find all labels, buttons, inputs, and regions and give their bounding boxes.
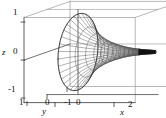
x-tick-label-0: 0 [76,97,81,107]
z-tick-label-0: 0 [13,46,18,56]
y-axis-label: y [42,106,46,116]
z-zero-left-line [24,44,70,60]
z-tick-label-neg1: -1 [8,84,16,94]
z-tick-label-1: 1 [13,7,18,17]
mesh-longitudinal-line [86,14,156,50]
x-tick-label-2: 2 [128,99,133,109]
plot-canvas [0,0,166,118]
surface-plot-figure: 1 0 -1 z 1 0 -1 y 0 2 x [0,0,166,118]
y-tick-label-neg1: -1 [64,97,72,107]
x-axis-label: x [120,107,124,117]
mesh-longitudinal-line [64,30,155,51]
surface-tip [138,49,155,55]
mesh-longitudinal-line [92,20,156,51]
z-axis-label: z [2,47,6,57]
y-tick-label-1: 1 [19,97,24,107]
